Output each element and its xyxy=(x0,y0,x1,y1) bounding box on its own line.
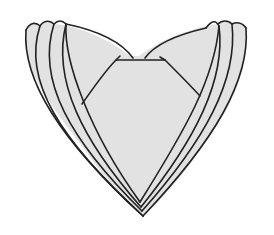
illustration-canvas: folded napkin heart shape xyxy=(0,0,274,235)
napkin-silhouette xyxy=(25,21,246,216)
folded-napkin-drawing xyxy=(0,0,274,235)
